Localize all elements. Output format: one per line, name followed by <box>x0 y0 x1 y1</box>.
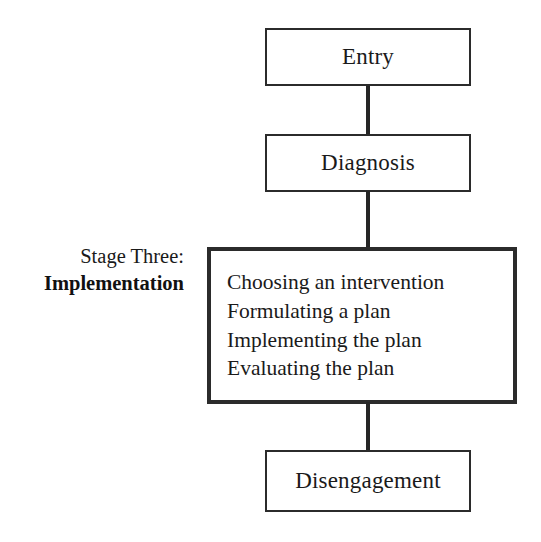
node-diagnosis-label: Diagnosis <box>321 150 415 176</box>
node-disengagement-label: Disengagement <box>295 468 441 494</box>
node-diagnosis: Diagnosis <box>265 134 471 192</box>
node-implementation: Choosing an intervention Formulating a p… <box>207 247 517 404</box>
implementation-step: Evaluating the plan <box>227 354 444 383</box>
stage-caption-line-1: Stage Three: <box>8 243 184 270</box>
node-entry: Entry <box>265 28 471 86</box>
implementation-step: Implementing the plan <box>227 326 444 355</box>
stage-caption-line-2: Implementation <box>8 270 184 297</box>
implementation-step: Choosing an intervention <box>227 268 444 297</box>
flowchart-canvas: Stage Three: Implementation Entry Diagno… <box>0 0 541 542</box>
connector-implementation-to-disengagement <box>366 402 370 452</box>
node-entry-label: Entry <box>342 44 394 70</box>
connector-diagnosis-to-implementation <box>366 191 370 251</box>
connector-entry-to-diagnosis <box>366 86 370 138</box>
node-disengagement: Disengagement <box>265 450 471 512</box>
stage-caption: Stage Three: Implementation <box>8 243 184 296</box>
implementation-step-list: Choosing an intervention Formulating a p… <box>211 268 444 382</box>
implementation-step: Formulating a plan <box>227 297 444 326</box>
